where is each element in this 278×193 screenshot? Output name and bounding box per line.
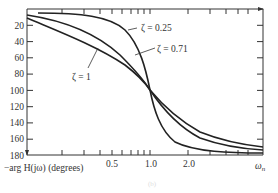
svg-text:60: 60: [15, 53, 25, 63]
curve-zeta-0.25: [38, 13, 263, 153]
svg-text:20: 20: [15, 21, 25, 31]
label-zeta-025: ζ = 0.25: [141, 23, 172, 34]
figure-caption: (b): [148, 180, 156, 188]
label-zeta-071: ζ = 0.71: [157, 44, 188, 55]
svg-text:0.5: 0.5: [106, 159, 118, 169]
x-tick-labels: 0.5 1.0 2.0: [106, 159, 195, 169]
label-zeta-1: ζ = 1: [72, 72, 91, 83]
svg-text:80: 80: [15, 69, 25, 79]
svg-text:2.0: 2.0: [183, 159, 195, 169]
svg-text:40: 40: [15, 37, 25, 47]
y-tick-labels: 20 40 60 80 100 120 140 160 180: [10, 21, 25, 161]
phase-plot: 20 40 60 80 100 120 140 160 180 0.5 1.0 …: [0, 0, 278, 193]
svg-text:140: 140: [10, 118, 25, 128]
x-axis-label: ωn: [255, 161, 266, 173]
svg-text:180: 180: [10, 151, 25, 161]
svg-text:120: 120: [10, 102, 25, 112]
y-axis-label: −arg H(jω) (degrees): [4, 163, 83, 174]
svg-text:1.0: 1.0: [145, 159, 157, 169]
curves: [27, 13, 263, 153]
svg-text:100: 100: [10, 86, 25, 96]
svg-text:160: 160: [10, 134, 25, 144]
curve-zeta-1: [27, 18, 263, 147]
